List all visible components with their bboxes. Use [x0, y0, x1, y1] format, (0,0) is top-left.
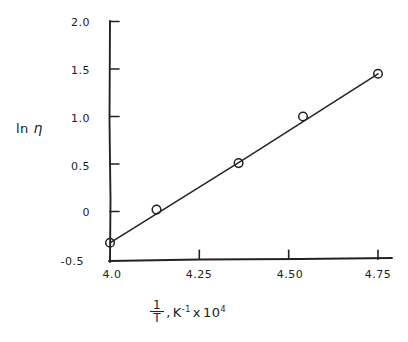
y-axis [110, 21, 111, 262]
x-tick-label-4-75: 4.75 [348, 268, 408, 281]
x-axis-label-unit: K-1 [173, 305, 191, 320]
y-axis-label: ln η [16, 120, 43, 136]
chart-figure: 2.0 1.5 1.0 0.5 0 -0.5 4.0 4.25 4.50 4.7… [0, 0, 408, 342]
y-tick-label-minus-0-5: -0.5 [38, 255, 84, 268]
data-point [299, 112, 308, 121]
x-tick-label-4-0: 4.0 [82, 268, 142, 281]
x-axis-label-separator: , [166, 305, 171, 320]
x-tick-label-4-25: 4.25 [169, 268, 229, 281]
y-tick-label-1-0: 1.0 [44, 112, 90, 125]
fraction-denominator: T [150, 311, 164, 324]
x-axis-label: 1 T , K-1 x 104 [150, 300, 226, 325]
unit-exponent: -1 [182, 305, 191, 314]
y-tick-label-1-5: 1.5 [44, 64, 90, 77]
y-axis-label-ln: ln [16, 121, 29, 136]
x-axis-label-fraction: 1 T [150, 299, 164, 324]
fit-line [110, 74, 378, 243]
x-axis-label-scale: 104 [203, 305, 226, 320]
fraction-numerator: 1 [150, 299, 164, 311]
data-point [152, 205, 161, 214]
scale-base: 10 [203, 305, 221, 320]
scale-exponent: 4 [221, 305, 227, 314]
y-tick-label-2-0: 2.0 [44, 16, 90, 29]
unit-base: K [173, 305, 182, 320]
y-axis-ticks [110, 22, 119, 212]
y-axis-label-symbol: η [34, 120, 43, 136]
x-tick-label-4-50: 4.50 [260, 268, 320, 281]
x-axis [109, 258, 392, 261]
y-tick-label-0: 0 [44, 206, 90, 219]
x-axis-label-times: x [193, 305, 201, 320]
y-tick-label-0-5: 0.5 [44, 160, 90, 173]
